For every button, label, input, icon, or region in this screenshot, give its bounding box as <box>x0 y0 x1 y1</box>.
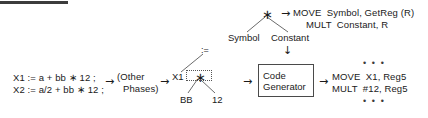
codegen-to-output-arrow: → <box>319 76 328 87</box>
ir-to-codegen-arrow: → <box>243 76 252 87</box>
diagram-canvas: ∗ Symbol Constant → MOVE Symbol, GetReg … <box>0 0 428 118</box>
pattern-tree-root-node: ∗ <box>262 10 273 19</box>
pattern-to-code-arrow: → <box>281 8 290 19</box>
ir-tree-op-node: ∗ <box>195 73 206 82</box>
code-generator-label-line-1: Code <box>263 70 286 81</box>
pattern-tree-left-child: Symbol <box>228 32 260 43</box>
output-code-line-1: MOVE X1, Reg5 <box>332 71 406 82</box>
source-code-line-1: X1 := a + bb ∗ 12 ; <box>13 72 96 83</box>
pattern-code-line-1: MOVE Symbol, GetReg (R) <box>293 7 414 18</box>
output-code-line-2: MULT #12, Reg5 <box>332 83 408 94</box>
ir-tree-op-right-child: 12 <box>212 94 223 105</box>
output-ellipsis-top: • • • <box>363 58 385 68</box>
source-to-phases-arrow: → <box>105 76 114 87</box>
phases-label-line-2: Phases) <box>123 83 159 94</box>
code-generator-box: Code Generator <box>258 64 314 97</box>
pattern-code-line-2: MULT Constant, R <box>306 19 388 30</box>
top-horizontal-rule <box>0 1 68 4</box>
output-ellipsis-bottom: • • • <box>363 96 385 106</box>
source-code-line-2: X2 := a/2 + bb ∗ 12 ; <box>13 84 104 95</box>
phases-to-ir-arrow: → <box>160 76 169 87</box>
phases-label-line-1: (Other <box>117 71 145 82</box>
pattern-tree-right-child: Constant <box>271 32 309 43</box>
ir-tree-left-child: X1 <box>172 71 184 82</box>
code-generator-label-line-2: Generator <box>263 81 306 92</box>
ir-tree-op-left-child: BB <box>180 94 193 105</box>
pattern-down-arrow: ↓ <box>283 45 292 56</box>
ir-tree-root-label: := <box>201 45 209 56</box>
